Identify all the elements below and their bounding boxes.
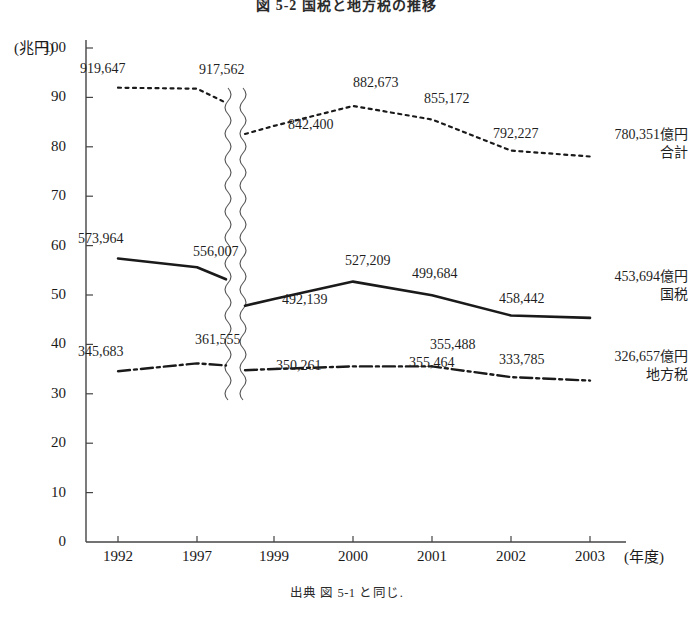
- y-tick-label-50: 50: [20, 287, 66, 302]
- y-tick-label-20: 20: [20, 435, 66, 450]
- x-tick-label-1999: 1999: [244, 549, 304, 564]
- point-label-地方税-2002: 333,785: [499, 353, 545, 367]
- series-name-合計: 合計: [570, 144, 688, 162]
- series-name-地方税: 地方税: [570, 366, 688, 384]
- point-label-合計-1997: 917,562: [199, 63, 245, 77]
- point-label-国税-2002: 458,442: [499, 292, 545, 306]
- series-end-label-合計: 780,351億円合計: [570, 126, 688, 161]
- point-label-合計-2002: 792,227: [493, 127, 539, 141]
- series-end-label-国税: 453,694億円国税: [570, 268, 688, 303]
- point-label-合計-1992: 919,647: [80, 62, 126, 76]
- source-note: 出典 図 5-1 と同じ.: [0, 582, 693, 601]
- axes-layer: [86, 40, 626, 542]
- y-tick-label-40: 40: [20, 336, 66, 351]
- point-label-地方税-2001: 355,488: [430, 338, 476, 352]
- series-line-合計-seg1: [118, 88, 226, 103]
- y-tick-label-10: 10: [20, 485, 66, 500]
- series-name-国税: 国税: [570, 286, 688, 304]
- x-tick-label-1997: 1997: [167, 549, 227, 564]
- y-tick-label-60: 60: [20, 238, 66, 253]
- figure-root: 図 5-2 国税と地方税の推移 (兆円) (年度) 01020304050607…: [0, 0, 693, 620]
- point-label-国税-2000: 527,209: [345, 254, 391, 268]
- y-tick-label-30: 30: [20, 386, 66, 401]
- x-tick-label-2000: 2000: [323, 549, 383, 564]
- series-end-value-合計: 780,351億円: [615, 127, 689, 142]
- point-label-地方税-1997: 361,555: [195, 333, 241, 347]
- point-label-国税-1999: 492,139: [282, 293, 328, 307]
- y-tick-label-80: 80: [20, 139, 66, 154]
- x-tick-label-2001: 2001: [402, 549, 462, 564]
- series-end-label-地方税: 326,657億円地方税: [570, 348, 688, 383]
- x-tick-label-1992: 1992: [88, 549, 148, 564]
- series-end-value-国税: 453,694億円: [615, 269, 689, 284]
- x-tick-label-2003: 2003: [560, 549, 620, 564]
- y-tick-label-0: 0: [20, 534, 66, 549]
- chart-canvas: [0, 0, 693, 620]
- point-label-国税-2001: 499,684: [412, 267, 458, 281]
- y-tick-label-70: 70: [20, 188, 66, 203]
- series-line-地方税-seg1: [118, 363, 226, 371]
- point-label-地方税-1992: 345,683: [78, 345, 124, 359]
- y-tick-label-100: 100: [20, 40, 66, 55]
- x-tick-label-2002: 2002: [481, 549, 541, 564]
- point-label-合計-1999: 842,400: [288, 118, 334, 132]
- y-tick-label-90: 90: [20, 89, 66, 104]
- point-label-地方税-2000: 355,464: [409, 356, 455, 370]
- point-label-地方税-1999: 350,261: [276, 359, 322, 373]
- series-line-国税-seg1: [118, 259, 226, 280]
- point-label-国税-1997: 556,007: [193, 245, 239, 259]
- point-label-合計-2000: 882,673: [353, 76, 399, 90]
- series-end-value-地方税: 326,657億円: [615, 349, 689, 364]
- point-label-合計-2001: 855,172: [424, 92, 470, 106]
- point-label-国税-1992: 573,964: [78, 232, 124, 246]
